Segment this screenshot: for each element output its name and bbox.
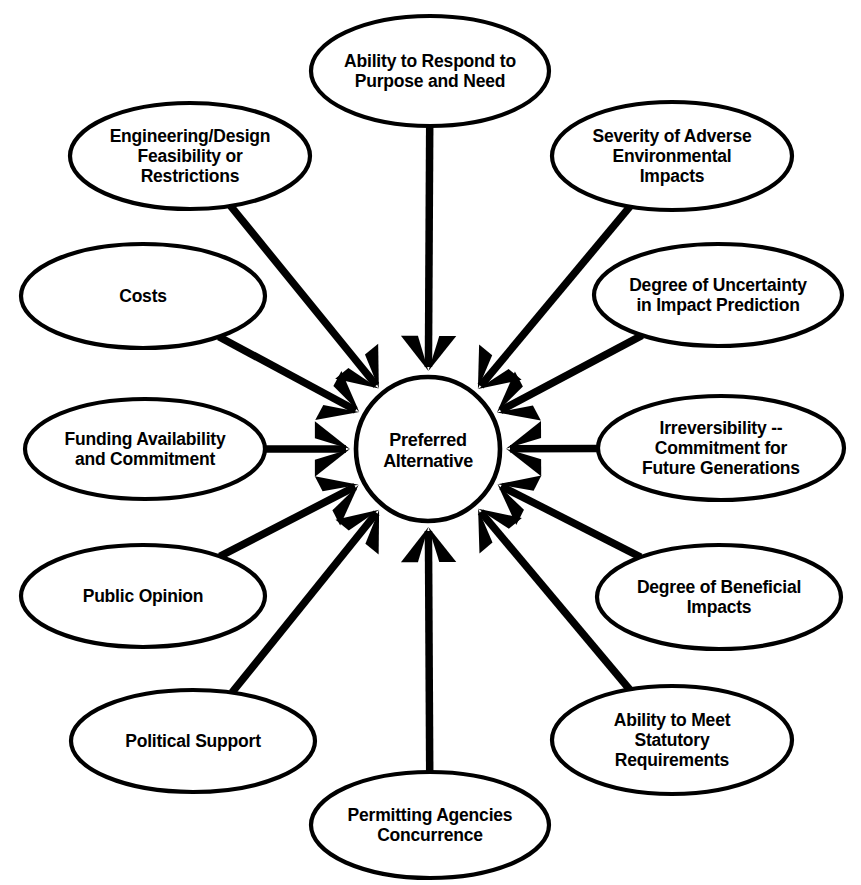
node-degree-beneficial[interactable]: Degree of BeneficialImpacts <box>597 545 841 649</box>
node-label-irreversibility: Commitment for <box>655 438 788 458</box>
node-costs[interactable]: Costs <box>21 244 265 348</box>
connector-degree-beneficial <box>498 476 641 558</box>
node-label-ability-to-respond: Ability to Respond to <box>344 51 516 71</box>
node-engineering-design[interactable]: Engineering/DesignFeasibility orRestrict… <box>70 103 310 209</box>
node-label-ability-statutory: Ability to Meet <box>614 710 731 730</box>
node-ability-to-respond[interactable]: Ability to Respond toPurpose and Need <box>311 16 549 126</box>
node-label-degree-beneficial: Impacts <box>687 597 752 617</box>
node-label-permitting-agencies: Concurrence <box>377 825 483 845</box>
connector-permitting-agencies <box>401 527 456 772</box>
hub-group[interactable]: Preferred Alternative <box>356 377 500 521</box>
node-label-irreversibility: Irreversibility -- <box>660 418 783 438</box>
connector-costs <box>219 337 359 420</box>
node-label-severity-adverse: Severity of Adverse <box>593 126 752 146</box>
node-severity-adverse[interactable]: Severity of AdverseEnvironmentalImpacts <box>552 102 792 210</box>
node-label-funding-availability: Funding Availability <box>65 429 226 449</box>
node-label-ability-to-respond: Purpose and Need <box>355 71 505 91</box>
node-label-degree-beneficial: Degree of Beneficial <box>637 577 801 597</box>
node-political-support[interactable]: Political Support <box>71 690 315 792</box>
node-label-degree-uncertainty: Degree of Uncertainty <box>629 275 807 295</box>
node-label-costs: Costs <box>119 286 167 306</box>
connector-funding-availability <box>265 421 350 476</box>
node-label-severity-adverse: Impacts <box>640 166 705 186</box>
connector-ability-to-respond <box>401 126 456 371</box>
node-label-engineering-design: Restrictions <box>141 166 240 186</box>
node-ability-statutory[interactable]: Ability to MeetStatutoryRequirements <box>552 686 792 794</box>
node-public-opinion[interactable]: Public Opinion <box>21 545 265 647</box>
node-label-engineering-design: Feasibility or <box>137 146 243 166</box>
node-degree-uncertainty[interactable]: Degree of Uncertaintyin Impact Predictio… <box>594 244 842 346</box>
node-label-engineering-design: Engineering/Design <box>110 126 271 146</box>
hub-and-spoke-diagram: Ability to Respond toPurpose and NeedEng… <box>0 0 861 885</box>
node-irreversibility[interactable]: Irreversibility --Commitment forFuture G… <box>598 396 844 500</box>
diagram-root: Ability to Respond toPurpose and NeedEng… <box>0 0 861 885</box>
node-label-political-support: Political Support <box>125 731 261 751</box>
node-label-funding-availability: and Commitment <box>75 449 215 469</box>
node-label-severity-adverse: Environmental <box>613 146 732 166</box>
node-label-ability-statutory: Requirements <box>615 750 730 770</box>
node-label-public-opinion: Public Opinion <box>83 586 204 606</box>
node-label-degree-uncertainty: in Impact Prediction <box>636 295 799 315</box>
hub-label-line-1: Preferred <box>389 430 466 450</box>
connector-irreversibility <box>506 421 598 476</box>
node-label-irreversibility: Future Generations <box>642 458 800 478</box>
node-permitting-agencies[interactable]: Permitting AgenciesConcurrence <box>311 772 549 878</box>
node-label-permitting-agencies: Permitting Agencies <box>348 805 513 825</box>
connector-public-opinion <box>220 476 359 556</box>
node-funding-availability[interactable]: Funding Availabilityand Commitment <box>25 399 265 499</box>
hub-label-line-2: Alternative <box>383 451 473 471</box>
node-label-ability-statutory: Statutory <box>634 730 709 750</box>
